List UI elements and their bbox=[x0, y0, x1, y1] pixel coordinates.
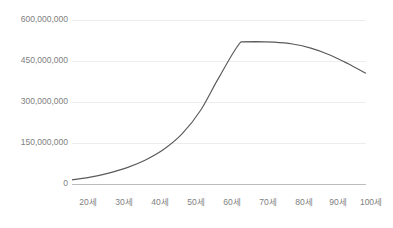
x-tick-label-50: 50세 bbox=[187, 197, 204, 207]
x-tick-label-80: 80세 bbox=[295, 197, 312, 207]
x-tick-label-60: 60세 bbox=[223, 197, 240, 207]
x-tick-label-100: 100세 bbox=[360, 197, 382, 207]
y-tick-label-600m: 600,000,000 bbox=[21, 14, 69, 24]
chart-background bbox=[0, 0, 393, 228]
line-chart: 600,000,000 450,000,000 300,000,000 150,… bbox=[0, 0, 393, 228]
x-tick-label-70: 70세 bbox=[259, 197, 276, 207]
x-axis-labels: 20세 30세 40세 50세 60세 70세 80세 90세 100세 bbox=[79, 197, 382, 207]
y-tick-label-300m: 300,000,000 bbox=[21, 96, 69, 106]
chart-screenshot: 600,000,000 450,000,000 300,000,000 150,… bbox=[0, 0, 393, 228]
y-tick-label-150m: 150,000,000 bbox=[21, 137, 69, 147]
x-tick-label-20: 20세 bbox=[79, 197, 96, 207]
x-tick-label-90: 90세 bbox=[329, 197, 346, 207]
x-tick-label-30: 30세 bbox=[115, 197, 132, 207]
x-tick-label-40: 40세 bbox=[151, 197, 168, 207]
y-tick-label-450m: 450,000,000 bbox=[21, 55, 69, 65]
y-tick-label-0: 0 bbox=[63, 178, 68, 188]
